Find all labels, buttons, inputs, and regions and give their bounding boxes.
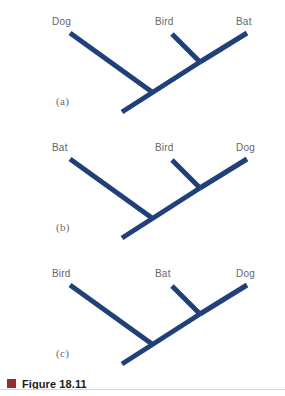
branch-right-leaf — [200, 33, 247, 62]
figure-caption-bar: Figure 18.11 — [0, 371, 285, 396]
leaf-label-right: Bat — [236, 16, 252, 27]
panel-letter-c: (c) — [56, 347, 69, 359]
branch-left-leaf — [70, 159, 152, 218]
cladogram-panel-a: Dog Bird Bat (a) — [0, 0, 285, 125]
leaf-label-right: Dog — [236, 142, 255, 153]
panel-letter-a: (a) — [56, 95, 69, 107]
branch-middle-leaf — [172, 286, 200, 314]
branch-left-leaf — [70, 285, 152, 344]
branch-root-to-right-node — [122, 314, 200, 364]
branch-root-to-right-node — [122, 62, 200, 112]
panel-letter-b: (b) — [56, 221, 70, 233]
caption-square-icon — [7, 379, 16, 388]
leaf-label-left: Bat — [52, 142, 68, 153]
cladogram-panel-c: Bird Bat Dog (c) — [0, 252, 285, 377]
figure-caption-label: Figure 18.11 — [22, 378, 87, 390]
leaf-label-right: Dog — [236, 268, 255, 279]
branch-right-leaf — [200, 285, 247, 314]
branch-right-leaf — [200, 159, 247, 188]
leaf-label-middle: Bird — [155, 16, 174, 27]
cladogram-panel-b: Bat Bird Dog (b) — [0, 126, 285, 251]
leaf-label-left: Dog — [52, 16, 71, 27]
branch-middle-leaf — [172, 34, 200, 62]
leaf-label-middle: Bird — [155, 142, 174, 153]
branch-left-leaf — [70, 33, 152, 92]
leaf-label-left: Bird — [52, 268, 71, 279]
branch-middle-leaf — [172, 160, 200, 188]
branch-root-to-right-node — [122, 188, 200, 238]
leaf-label-middle: Bat — [155, 268, 171, 279]
figure-container: Dog Bird Bat (a) Bat Bird Dog (b) — [0, 0, 285, 396]
bottom-divider — [0, 389, 285, 390]
